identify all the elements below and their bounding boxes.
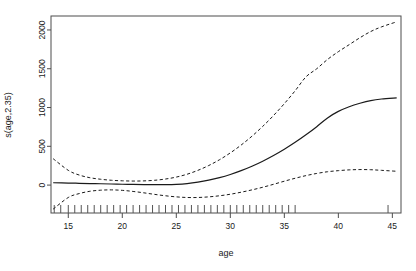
- x-axis-tick-label: 20: [118, 221, 128, 231]
- y-axis-tick-label: 1000: [37, 98, 47, 117]
- y-axis-tick-label: 500: [37, 139, 47, 153]
- y-axis-tick-label: 2000: [37, 20, 47, 39]
- gam-smooth-plot: 0500100015002000 15202530354045 age s(ag…: [0, 0, 416, 271]
- figure-background: [0, 0, 416, 271]
- y-axis-title: s(age,2.35): [3, 92, 13, 138]
- y-axis-tick-label: 0: [37, 182, 47, 187]
- x-axis-tick-label: 15: [64, 221, 74, 231]
- x-axis-title: age: [218, 248, 233, 258]
- x-axis-tick-label: 30: [226, 221, 236, 231]
- x-axis-tick-label: 40: [334, 221, 344, 231]
- x-axis-tick-label: 25: [172, 221, 182, 231]
- x-axis-tick-label: 35: [280, 221, 290, 231]
- y-axis-tick-label: 1500: [37, 59, 47, 78]
- chart-svg: 0500100015002000 15202530354045 age s(ag…: [0, 0, 416, 271]
- x-axis-tick-label: 45: [388, 221, 398, 231]
